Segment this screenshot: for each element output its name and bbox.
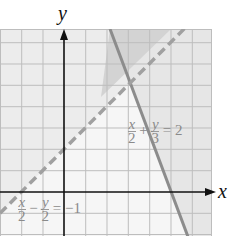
eq2-a-den: 2 (18, 210, 26, 223)
y-axis-label: y (58, 2, 67, 25)
equation-label-solid: x2 + y3 = 2 (128, 118, 182, 145)
eq1-b-den: 3 (151, 132, 159, 145)
eq2-b-den: 2 (41, 210, 49, 223)
eq2-rhs: = −1 (53, 200, 81, 216)
eq1-op: + (139, 122, 147, 138)
x-axis-label: x (218, 180, 227, 203)
eq2-op: − (29, 200, 37, 216)
equation-label-dashed: x2 − y2 = −1 (18, 196, 81, 223)
eq1-a-den: 2 (128, 132, 136, 145)
eq1-rhs: = 2 (163, 122, 183, 138)
